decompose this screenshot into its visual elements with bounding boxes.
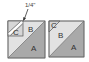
left-label-c: C	[13, 28, 19, 37]
left-label-b: B	[28, 25, 33, 34]
right-label-c: C	[51, 21, 57, 30]
left-block: 1/4" C B A	[8, 2, 45, 58]
quilt-block-diagram: 1/4" C B A C B A	[0, 0, 89, 62]
measurement-label: 1/4"	[25, 2, 35, 8]
right-label-a: A	[71, 43, 77, 52]
arrowhead-icon	[23, 17, 26, 21]
left-label-a: A	[31, 44, 37, 53]
right-label-b: B	[58, 31, 63, 40]
right-block: C B A	[49, 21, 84, 57]
